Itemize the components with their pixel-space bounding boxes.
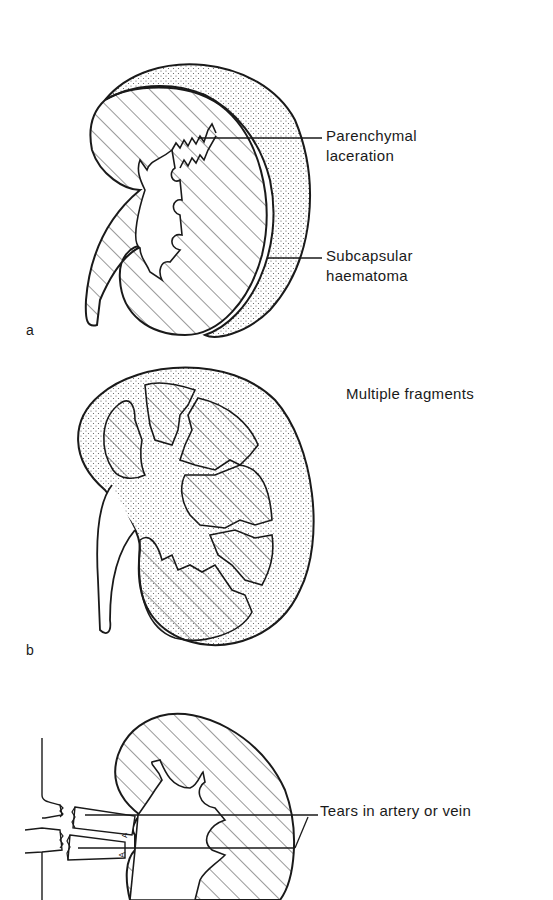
label-multiple-fragments: Multiple fragments xyxy=(346,384,474,404)
vein-mark: A xyxy=(117,852,127,858)
label-line: haematoma xyxy=(326,266,413,286)
label-line: laceration xyxy=(326,146,417,166)
label-parenchymal-laceration: Parenchymal laceration xyxy=(326,126,417,166)
kidney-subcapsular-diagram xyxy=(0,0,553,340)
panel-label-b: b xyxy=(26,642,34,658)
kidney-vascular-tear-diagram: A A xyxy=(0,680,553,900)
panel-c: A A Tears in artery or vein xyxy=(0,680,553,900)
label-subcapsular-haematoma: Subcapsular haematoma xyxy=(326,246,413,286)
panel-b: Multiple fragments b xyxy=(0,350,553,670)
label-line: Subcapsular xyxy=(326,246,413,266)
label-tears-artery-vein: Tears in artery or vein xyxy=(320,801,471,821)
panel-a: Parenchymal laceration Subcapsular haema… xyxy=(0,0,553,340)
label-line: Parenchymal xyxy=(326,126,417,146)
artery-mark: A xyxy=(120,832,129,838)
panel-label-a: a xyxy=(26,322,34,338)
